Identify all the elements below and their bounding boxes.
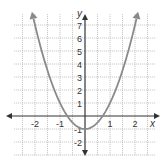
y-tick-label: 5 (77, 47, 82, 57)
y-axis-label: y (76, 8, 83, 19)
x-tick-label: -2 (31, 119, 39, 129)
y-tick-label: 6 (77, 34, 82, 44)
arrow-head-icon (133, 12, 141, 20)
y-tick-label: 2 (77, 86, 82, 96)
axes (6, 14, 160, 156)
arrow-head-icon (30, 12, 38, 20)
y-tick-label: 4 (77, 60, 82, 70)
x-tick-label: -1 (56, 119, 64, 129)
y-tick-label: -2 (74, 138, 82, 148)
x-axis-label: x (149, 118, 156, 129)
y-tick-label: 3 (77, 73, 82, 83)
y-tick-label: 7 (77, 21, 82, 31)
parabola-graph: -2-1127654321-1-2 x y (0, 0, 164, 159)
x-tick-label: 2 (132, 119, 137, 129)
x-tick-label: 1 (107, 119, 112, 129)
y-tick-label: 1 (77, 99, 82, 109)
